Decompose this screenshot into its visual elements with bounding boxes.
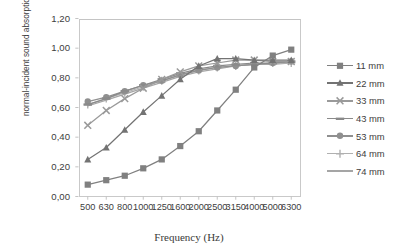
legend-label: 53 mm	[353, 131, 385, 142]
y-tick-label: 0,80	[26, 72, 70, 83]
legend-item-33-mm: 33 mm	[327, 92, 413, 110]
y-tick-label: 0,00	[26, 191, 70, 202]
y-tick-label: 0,60	[26, 102, 70, 113]
y-tick-label: 0,40	[26, 131, 70, 142]
absorption-coefficient-chart: normal-incident sound absorption coeffic…	[0, 0, 415, 251]
legend-item-64-mm: 64 mm	[327, 145, 413, 163]
legend-label: 64 mm	[353, 148, 385, 159]
series-64-mm	[84, 59, 296, 109]
legend-marker-icon	[327, 94, 353, 108]
y-tick-label: 1,00	[26, 42, 70, 53]
legend-label: 43 mm	[353, 113, 385, 124]
legend-item-22-mm: 22 mm	[327, 75, 413, 93]
series-11-mm	[85, 47, 295, 188]
x-tick-label: 6300	[275, 202, 307, 212]
chart-legend: 11 mm22 mm33 mm43 mm53 mm64 mm74 mm	[327, 57, 413, 180]
legend-item-11-mm: 11 mm	[327, 57, 413, 75]
legend-marker-icon	[327, 59, 353, 73]
legend-marker-icon	[327, 147, 353, 161]
legend-marker-icon	[327, 129, 353, 143]
legend-marker-icon	[327, 76, 353, 90]
legend-item-43-mm: 43 mm	[327, 110, 413, 128]
y-tick-label: 1,20	[26, 13, 70, 24]
legend-item-53-mm: 53 mm	[327, 127, 413, 145]
legend-marker-icon	[327, 112, 353, 126]
legend-label: 22 mm	[353, 78, 385, 89]
y-tick-label: 0,20	[26, 161, 70, 172]
series-33-mm	[84, 57, 294, 129]
legend-label: 74 mm	[353, 166, 385, 177]
legend-item-74-mm: 74 mm	[327, 163, 413, 181]
legend-marker-icon	[327, 164, 353, 178]
legend-label: 11 mm	[353, 60, 384, 71]
x-axis-title: Frequency (Hz)	[78, 231, 300, 243]
series-53-mm	[85, 58, 295, 104]
series-43-mm	[84, 60, 296, 105]
legend-label: 33 mm	[353, 95, 385, 106]
